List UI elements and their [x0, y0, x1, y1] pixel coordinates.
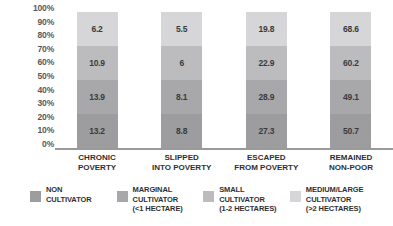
legend-label-line3: (<1 HECTARE) — [133, 204, 183, 214]
bar-segment[interactable]: 68.6 — [330, 12, 371, 46]
bar-segment[interactable]: 50.7 — [330, 114, 371, 148]
y-axis-tick: 60% — [14, 58, 54, 66]
legend-swatch-icon — [30, 191, 41, 202]
x-axis-label-escaped-from-poverty: ESCAPED FROM POVERTY — [224, 153, 308, 172]
legend-label: NON CULTIVATOR — [46, 185, 92, 204]
x-axis-label-remained-non-poor: REMAINED NON-POOR — [309, 153, 393, 172]
y-axis-tick: 70% — [14, 45, 54, 53]
legend-item-marginal-cultivator[interactable]: MARGINAL CULTIVATOR (<1 HECTARE) — [117, 185, 199, 214]
legend-item-medium-large-cultivator[interactable]: MEDIUM/LARGE CULTIVATOR (>2 HECTARES) — [290, 185, 380, 214]
x-axis-line — [55, 148, 393, 150]
bar-segment[interactable]: 5.5 — [161, 12, 202, 46]
legend-label-line1: SMALL — [219, 185, 276, 195]
bar-segment[interactable]: 8.8 — [161, 114, 202, 148]
legend-label: MARGINAL CULTIVATOR (<1 HECTARE) — [133, 185, 183, 214]
legend-item-small-cultivator[interactable]: SMALL CULTIVATOR (1-2 HECTARES) — [203, 185, 285, 214]
bar-column-remained-non-poor: 68.6 60.2 49.1 50.7 — [309, 12, 393, 148]
legend-label-line1: MARGINAL — [133, 185, 183, 195]
y-axis-tick: 90% — [14, 18, 54, 26]
bar-segment[interactable]: 49.1 — [330, 80, 371, 114]
legend-item-non-cultivator[interactable]: NON CULTIVATOR — [30, 185, 112, 214]
x-axis-labels: CHRONIC POVERTY SLIPPED INTO POVERTY ESC… — [55, 153, 393, 172]
y-axis: 100% 90% 80% 70% 60% 50% 40% 30% 20% 10%… — [14, 8, 54, 152]
legend-label-line3: (1-2 HECTARES) — [219, 204, 276, 214]
bar-segment[interactable]: 13.9 — [77, 80, 118, 114]
x-axis-label-line1: SLIPPED — [140, 153, 224, 163]
chart-legend: NON CULTIVATOR MARGINAL CULTIVATOR (<1 H… — [30, 185, 385, 214]
bar-column-slipped-into-poverty: 5.5 6 8.1 8.8 — [140, 12, 224, 148]
legend-label-line1: MEDIUM/LARGE — [306, 185, 364, 195]
legend-label-line2: CULTIVATOR — [133, 195, 183, 205]
legend-label: MEDIUM/LARGE CULTIVATOR (>2 HECTARES) — [306, 185, 364, 214]
bar-segment[interactable]: 22.9 — [246, 46, 287, 80]
bar-segment[interactable]: 6 — [161, 46, 202, 80]
bar-segment[interactable]: 28.9 — [246, 80, 287, 114]
legend-label-line2: CULTIVATOR — [219, 195, 276, 205]
bar-column-chronic-poverty: 6.2 10.9 13.9 13.2 — [55, 12, 139, 148]
x-axis-label-line1: CHRONIC — [55, 153, 139, 163]
x-axis-label-line1: ESCAPED — [224, 153, 308, 163]
legend-label-line2: CULTIVATOR — [46, 195, 92, 205]
bar-segment[interactable]: 8.1 — [161, 80, 202, 114]
y-axis-tick: 0% — [14, 140, 54, 148]
legend-label-line3: (>2 HECTARES) — [306, 204, 364, 214]
bar-segment[interactable]: 10.9 — [77, 46, 118, 80]
x-axis-label-line2: NON-POOR — [309, 163, 393, 173]
y-axis-tick: 20% — [14, 113, 54, 121]
x-axis-label-line1: REMAINED — [309, 153, 393, 163]
stacked-bar: 68.6 60.2 49.1 50.7 — [330, 12, 371, 148]
bar-segment[interactable]: 13.2 — [77, 114, 118, 148]
x-axis-label-chronic-poverty: CHRONIC POVERTY — [55, 153, 139, 172]
y-axis-tick: 80% — [14, 31, 54, 39]
plot-area: 100% 90% 80% 70% 60% 50% 40% 30% 20% 10%… — [0, 0, 393, 178]
bar-segment[interactable]: 6.2 — [77, 12, 118, 46]
y-axis-tick: 30% — [14, 99, 54, 107]
legend-label-line2: CULTIVATOR — [306, 195, 364, 205]
stacked-bar: 6.2 10.9 13.9 13.2 — [77, 12, 118, 148]
x-axis-label-line2: POVERTY — [55, 163, 139, 173]
bar-segment[interactable]: 19.8 — [246, 12, 287, 46]
x-axis-label-slipped-into-poverty: SLIPPED INTO POVERTY — [140, 153, 224, 172]
legend-label-line1: NON — [46, 185, 92, 195]
bar-column-escaped-from-poverty: 19.8 22.9 28.9 27.3 — [224, 12, 308, 148]
y-axis-tick: 40% — [14, 86, 54, 94]
legend-swatch-icon — [117, 191, 128, 202]
legend-swatch-icon — [290, 191, 301, 202]
x-axis-label-line2: INTO POVERTY — [140, 163, 224, 173]
stacked-bar-chart: 100% 90% 80% 70% 60% 50% 40% 30% 20% 10%… — [0, 0, 393, 226]
bar-group: 6.2 10.9 13.9 13.2 5.5 6 8.1 8.8 19.8 22… — [55, 12, 393, 148]
stacked-bar: 5.5 6 8.1 8.8 — [161, 12, 202, 148]
legend-swatch-icon — [203, 191, 214, 202]
bar-segment[interactable]: 27.3 — [246, 114, 287, 148]
stacked-bar: 19.8 22.9 28.9 27.3 — [246, 12, 287, 148]
x-axis-label-line2: FROM POVERTY — [224, 163, 308, 173]
bar-segment[interactable]: 60.2 — [330, 46, 371, 80]
y-axis-tick: 50% — [14, 72, 54, 80]
legend-label: SMALL CULTIVATOR (1-2 HECTARES) — [219, 185, 276, 214]
y-axis-tick: 100% — [14, 4, 54, 12]
y-axis-tick: 10% — [14, 126, 54, 134]
